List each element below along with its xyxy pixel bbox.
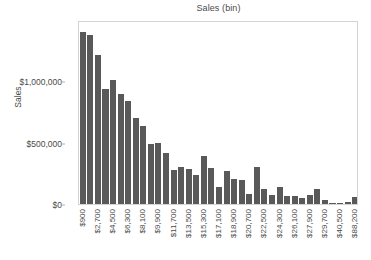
y-axis-tick-mark: [62, 205, 65, 206]
x-axis-tick-label: $27,900: [304, 209, 313, 238]
bar: [231, 179, 237, 204]
bar: [110, 80, 116, 205]
bar: [133, 118, 139, 204]
bar: [345, 202, 351, 204]
bar: [307, 195, 313, 204]
bar: [224, 171, 230, 204]
x-axis-tick-label: $26,100: [289, 209, 298, 238]
x-axis-tick-label: $9,900: [153, 209, 162, 233]
bar: [118, 94, 124, 204]
bar: [284, 196, 290, 204]
y-axis-tick-label: $1,000,000: [19, 77, 62, 87]
x-axis-tick-label: $18,900: [229, 209, 238, 238]
x-axis-tick-label: $20,700: [244, 209, 253, 238]
x-axis-tick-label: $6,300: [123, 209, 132, 233]
bar: [178, 167, 184, 204]
x-axis-tick-label: $17,100: [214, 209, 223, 238]
bar: [329, 203, 335, 204]
x-axis-tick-label: $24,300: [274, 209, 283, 238]
plot-area: [78, 21, 358, 205]
bar: [246, 194, 252, 204]
chart-container: Sales (bin) Sales $0$500,000$1,000,000 $…: [0, 0, 371, 260]
bar: [352, 197, 358, 204]
y-axis-tick-label: $0: [53, 200, 62, 210]
bar: [186, 169, 192, 204]
bars-layer: [79, 22, 357, 204]
bar: [95, 55, 101, 204]
x-axis-tick-label: $22,500: [259, 209, 268, 238]
x-axis-tick-label: $13,500: [183, 209, 192, 238]
x-axis: $900$2,700$4,500$6,300$8,100$9,900$11,70…: [78, 205, 359, 260]
x-axis-tick-label: $40,500: [335, 209, 344, 238]
bar: [216, 187, 222, 204]
y-axis: Sales $0$500,000$1,000,000: [0, 0, 78, 260]
x-axis-tick-label: $29,700: [319, 209, 328, 238]
bar: [163, 153, 169, 204]
bar: [148, 144, 154, 204]
bar: [314, 189, 320, 204]
y-axis-title: Sales: [13, 67, 23, 127]
y-axis-tick-mark: [62, 82, 65, 83]
bar: [277, 187, 283, 204]
bar: [155, 143, 161, 204]
bar: [239, 180, 245, 204]
y-axis-tick-mark: [62, 143, 65, 144]
bar: [87, 35, 93, 204]
bar: [322, 200, 328, 204]
bar: [125, 101, 131, 204]
x-axis-tick-label: $4,500: [108, 209, 117, 233]
bar: [171, 170, 177, 204]
x-axis-tick-label: $8,100: [138, 209, 147, 233]
bar: [299, 198, 305, 204]
bar: [337, 203, 343, 204]
y-axis-tick-label: $500,000: [27, 139, 62, 149]
x-axis-tick-label: $2,700: [92, 209, 101, 233]
bar: [80, 32, 86, 204]
chart-title: Sales (bin): [78, 3, 359, 13]
x-axis-tick-label: $900: [77, 209, 86, 227]
bar: [140, 126, 146, 204]
bar: [269, 195, 275, 204]
bar: [254, 167, 260, 204]
bar: [208, 168, 214, 204]
bar: [201, 156, 207, 204]
bar: [292, 196, 298, 204]
x-axis-tick-label: $11,700: [168, 209, 177, 237]
x-axis-tick-label: $15,300: [198, 209, 207, 238]
x-axis-tick-label: $88,200: [350, 209, 359, 238]
bar: [102, 89, 108, 204]
bar: [261, 189, 267, 204]
bar: [193, 175, 199, 204]
